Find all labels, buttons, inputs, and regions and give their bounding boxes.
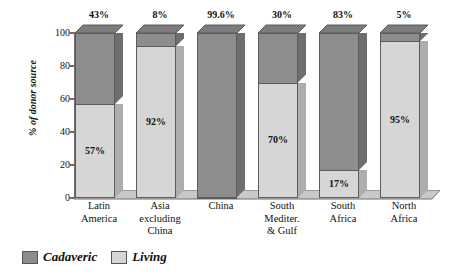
y-axis-label: % of donor source [27,43,39,153]
y-tick-label: 20 [44,160,70,170]
x-axis-category-line: excluding [123,213,197,226]
bar-value-label-living: 17% [319,178,359,189]
bar-side-cadaveric [176,33,184,46]
bar-side-living [298,83,306,199]
y-tick-label-wrap: 40 [40,127,70,137]
bar-column[interactable]: 92% [136,0,176,198]
bar-side-living [420,41,428,198]
bar-value-label-cadaveric: 43% [69,9,129,20]
chart-legend: Cadaveric Living [22,249,167,265]
bar-column[interactable]: 17% [319,0,359,198]
bar-side-cadaveric [237,33,245,197]
bar-segment-cadaveric[interactable] [380,33,420,41]
bar-segment-cadaveric[interactable] [197,33,237,197]
bar-side-cadaveric [359,33,367,170]
y-tick-label: 40 [44,127,70,137]
bar-value-label-living: 95% [380,114,420,125]
bar-top-face [75,24,115,33]
bar-top-face [136,24,176,33]
y-tick-label-wrap: 100 [40,28,70,38]
bar-value-label-living: 70% [258,134,298,145]
bar-top-face [197,24,237,33]
legend-item-living[interactable]: Living [111,249,167,265]
bar-segment-cadaveric[interactable] [75,33,115,104]
bar-top-face [319,24,359,33]
bar-top-face [258,24,298,33]
legend-label-living: Living [132,249,167,265]
bar-column[interactable]: 95% [380,0,420,198]
x-axis-category-line: North [367,200,441,213]
bar-value-label-cadaveric: 8% [130,9,190,20]
bar-value-label-cadaveric: 30% [252,9,312,20]
legend-label-cadaveric: Cadaveric [43,249,97,265]
bar-segment-cadaveric[interactable] [136,33,176,46]
x-axis-category-line: & Gulf [245,225,319,238]
y-tick-label-wrap: 60 [40,94,70,104]
y-tick-label-wrap: 20 [40,160,70,170]
bar-value-label-cadaveric: 5% [374,9,434,20]
bar-side-cadaveric [420,33,428,41]
bar-column[interactable]: 70% [258,0,298,198]
y-tick-label: 100 [44,28,70,38]
bar-column[interactable] [197,0,237,198]
bar-side-living [176,46,184,198]
bar-side-cadaveric [115,33,123,104]
bar-value-label-cadaveric: 99.6% [191,9,251,20]
y-tick-label-wrap: 80 [40,61,70,71]
y-tick-label: 60 [44,94,70,104]
bar-value-label-living: 57% [75,145,115,156]
x-axis-category-label: NorthAfrica [367,200,441,225]
bar-segment-cadaveric[interactable] [258,33,298,83]
x-axis-category-line: Africa [367,213,441,226]
stacked-bar-chart: % of donor source 020406080100 57%43%92%… [0,0,450,276]
bar-value-label-living: 92% [136,116,176,127]
legend-swatch-living-icon [111,251,127,264]
y-tick-label: 80 [44,61,70,71]
bar-side-cadaveric [298,33,306,83]
bar-side-living [115,104,123,198]
legend-item-cadaveric[interactable]: Cadaveric [22,249,97,265]
x-axis-category-line: China [123,225,197,238]
bar-value-label-cadaveric: 83% [313,9,373,20]
bar-column[interactable]: 57% [75,0,115,198]
legend-swatch-cadaveric-icon [22,251,38,264]
bar-segment-cadaveric[interactable] [319,33,359,170]
bar-top-face [380,24,420,33]
